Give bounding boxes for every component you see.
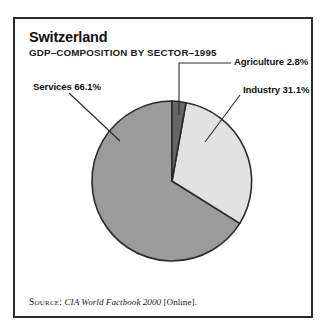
figure-frame: Switzerland GDP–COMPOSITION BY SECTOR–19… bbox=[13, 17, 313, 318]
pie-label-industry: Industry 31.1% bbox=[243, 84, 309, 95]
source-note: Source: CIA World Factbook 2000 [Online]… bbox=[29, 296, 197, 307]
source-suffix: [Online]. bbox=[163, 297, 196, 307]
leader-line-services bbox=[69, 93, 120, 141]
source-title: CIA World Factbook 2000 bbox=[64, 297, 161, 307]
pie-label-services: Services 66.1% bbox=[33, 81, 101, 92]
source-label: Source: bbox=[29, 296, 62, 307]
pie-label-agriculture: Agriculture 2.8% bbox=[234, 56, 308, 67]
